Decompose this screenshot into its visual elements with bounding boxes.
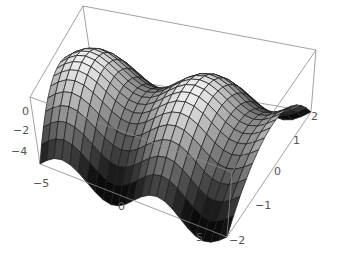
y-tick-label: 0	[274, 166, 281, 177]
surface-plot	[0, 0, 338, 256]
x-tick-label: 0	[118, 201, 125, 212]
z-tick-label: −2	[13, 125, 29, 136]
y-tick-label: 1	[293, 135, 300, 146]
surface-mesh	[40, 48, 311, 242]
x-tick-label: 5	[196, 232, 203, 243]
z-tick-label: 0	[22, 106, 29, 117]
y-tick-label: −1	[255, 200, 271, 211]
y-tick-label: −2	[229, 235, 245, 246]
y-tick-label: 2	[311, 111, 318, 122]
x-tick-label: −5	[33, 178, 49, 189]
z-tick-label: −4	[11, 146, 27, 157]
